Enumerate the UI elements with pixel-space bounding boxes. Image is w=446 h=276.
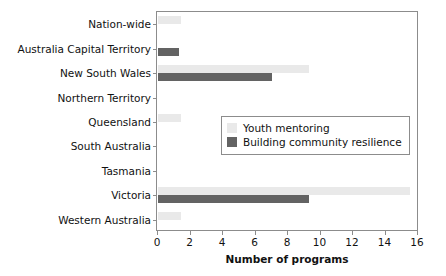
x-axis-tick [255,231,256,235]
y-axis-tick [153,49,157,50]
category-row: Tasmania [157,159,417,183]
category-label: Queensland [88,116,151,128]
category-label: Victoria [111,189,151,201]
x-axis-tick [385,231,386,235]
category-row: Western Australia [157,208,417,232]
x-axis-tick-label: 12 [345,236,358,249]
category-label: New South Wales [60,67,151,79]
x-axis-tick [320,231,321,235]
x-axis-tick-label: 8 [284,236,291,249]
bar-youth-mentoring [158,114,181,122]
y-axis-tick [153,220,157,221]
y-axis-tick [153,122,157,123]
y-axis-tick [153,98,157,99]
category-row: Australia Capital Territory [157,36,417,60]
legend-label: Building community resilience [243,136,402,148]
x-axis-tick-label: 0 [154,236,161,249]
x-axis-tick [157,231,158,235]
legend-swatch-icon [227,137,237,147]
bar-youth-mentoring [158,212,181,220]
y-axis-tick [153,171,157,172]
x-axis-tick-label: 14 [378,236,391,249]
x-axis-tick-label: 2 [186,236,193,249]
bar-building-community-resilience [158,48,179,56]
x-axis-tick-label: 10 [313,236,326,249]
x-axis: 0246810121416 Number of programs [156,231,418,275]
x-axis-tick [352,231,353,235]
category-row: Northern Territory [157,85,417,109]
y-axis-tick [153,146,157,147]
category-row: New South Wales [157,61,417,85]
x-axis-tick-label: 16 [410,236,423,249]
bar-building-community-resilience [158,73,272,81]
legend-entry: Youth mentoring [227,121,402,135]
x-axis-tick [190,231,191,235]
legend-swatch-icon [227,123,237,133]
x-axis-title: Number of programs [156,253,418,265]
category-label: Nation-wide [88,18,151,30]
category-label: Northern Territory [58,92,151,104]
legend-entry: Building community resilience [227,135,402,149]
category-label: Australia Capital Territory [18,43,151,55]
y-axis-tick [153,195,157,196]
y-axis-tick [153,24,157,25]
category-label: Tasmania [102,165,151,177]
y-axis-tick [153,73,157,74]
category-row: Victoria [157,183,417,207]
legend-label: Youth mentoring [243,122,330,134]
bar-building-community-resilience [158,195,309,203]
chart-legend: Youth mentoringBuilding community resili… [221,116,410,155]
category-row: Nation-wide [157,12,417,36]
x-axis-tick [417,231,418,235]
bar-chart: Nation-wideAustralia Capital TerritoryNe… [0,0,446,276]
category-label: South Australia [71,140,151,152]
bar-youth-mentoring [158,187,410,195]
bar-youth-mentoring [158,16,181,24]
x-axis-tick-label: 4 [219,236,226,249]
category-label: Western Australia [58,214,151,226]
x-axis-tick [222,231,223,235]
x-axis-tick-label: 6 [251,236,258,249]
bar-youth-mentoring [158,65,309,73]
x-axis-tick [287,231,288,235]
